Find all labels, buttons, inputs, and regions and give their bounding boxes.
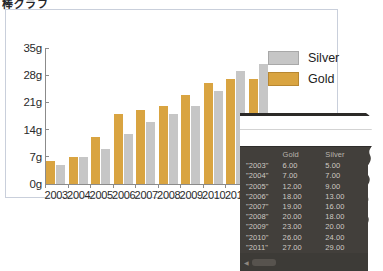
bar-gold[interactable] <box>91 137 100 184</box>
table-cell-gold: 19.00 <box>283 201 326 211</box>
y-axis-tick: 28g <box>23 69 45 81</box>
bar-silver[interactable] <box>124 134 133 185</box>
y-axis-tick: 21g <box>23 96 45 108</box>
bar-silver[interactable] <box>191 106 200 184</box>
y-axis-tick-label: 7g <box>30 151 42 163</box>
bar-silver[interactable] <box>56 165 65 184</box>
table-cell-gold: 26.00 <box>283 232 326 242</box>
bar-group <box>204 48 224 184</box>
chevron-left-icon[interactable]: ◀ <box>244 259 249 266</box>
plot-area: 0g7g14g21g28g35g <box>45 48 270 184</box>
bar-gold[interactable] <box>114 114 123 184</box>
bar-group <box>181 48 201 184</box>
table-cell-silver: 13.00 <box>325 191 368 201</box>
x-axis-tick-label: 2008 <box>157 189 180 201</box>
x-axis-tick-mark <box>90 184 91 188</box>
table-row[interactable]: "2009"23.0020.00 <box>240 222 368 232</box>
horizontal-scrollbar-thumb[interactable] <box>252 259 276 266</box>
table-header-row: Gold Silver <box>240 149 368 161</box>
x-axis-tick-mark <box>203 184 204 188</box>
bar-gold[interactable] <box>136 110 145 184</box>
y-axis-tick: 14g <box>23 124 45 136</box>
table-row[interactable]: "2008"20.0018.00 <box>240 212 368 222</box>
table-cell-gold: 12.00 <box>283 181 326 191</box>
table-cell-gold: 18.00 <box>283 191 326 201</box>
bar-group <box>114 48 134 184</box>
bar-silver[interactable] <box>101 149 110 184</box>
bar-group <box>46 48 66 184</box>
x-axis-line <box>45 184 272 185</box>
bar-silver[interactable] <box>146 122 155 184</box>
bar-gold[interactable] <box>46 161 55 184</box>
x-axis-tick-mark <box>158 184 159 188</box>
y-axis-tick-label: 35g <box>23 42 42 54</box>
table-row[interactable]: "2010"26.0024.00 <box>240 232 368 242</box>
bar-gold[interactable] <box>181 95 190 184</box>
legend-item-gold: Gold <box>268 72 339 86</box>
bar-group <box>69 48 89 184</box>
x-axis-tick-mark <box>135 184 136 188</box>
table-cell-silver: 29.00 <box>325 242 368 252</box>
x-axis-tick-mark <box>180 184 181 188</box>
table-cell-year: "2006" <box>240 191 283 201</box>
column-header-year[interactable] <box>240 149 283 161</box>
table-cell-year: "2010" <box>240 232 283 242</box>
legend-swatch-silver <box>268 51 299 65</box>
bar-gold[interactable] <box>204 83 213 184</box>
bar-silver[interactable] <box>79 157 88 184</box>
table-cell-year: "2005" <box>240 181 283 191</box>
x-axis-tick-label: 2004 <box>67 189 90 201</box>
table-row[interactable]: "2004"7.007.00 <box>240 171 368 181</box>
table-row[interactable]: "2005"12.009.00 <box>240 181 368 191</box>
table-cell-silver: 24.00 <box>325 232 368 242</box>
bar-group <box>91 48 111 184</box>
table-cell-year: "2009" <box>240 222 283 232</box>
table-cell-gold: 7.00 <box>283 171 326 181</box>
legend-label-gold: Gold <box>308 72 334 86</box>
data-table-overlay: Gold Silver "2003"6.005.00"2004"7.007.00… <box>240 113 383 271</box>
table-cell-gold: 27.00 <box>283 242 326 252</box>
chart-legend: Silver Gold <box>268 51 339 93</box>
legend-label-silver: Silver <box>308 51 339 65</box>
table-row[interactable]: "2006"18.0013.00 <box>240 191 368 201</box>
table-row[interactable]: "2003"6.005.00 <box>240 161 368 171</box>
column-header-silver[interactable]: Silver <box>325 149 368 161</box>
table-cell-gold: 23.00 <box>283 222 326 232</box>
x-axis-tick-mark <box>45 184 46 188</box>
y-axis-tick: 7g <box>30 151 45 163</box>
table-cell-gold: 20.00 <box>283 212 326 222</box>
overlay-footer: ◀ <box>240 253 368 271</box>
x-axis-tick-label: 2010 <box>202 189 225 201</box>
column-header-gold[interactable]: Gold <box>283 149 326 161</box>
y-axis-tick: 35g <box>23 42 45 54</box>
bar-gold[interactable] <box>159 106 168 184</box>
table-cell-silver: 18.00 <box>325 212 368 222</box>
x-axis-tick-mark <box>68 184 69 188</box>
table-cell-silver: 20.00 <box>325 222 368 232</box>
x-axis-tick-label: 2003 <box>45 189 68 201</box>
x-axis-tick-label: 2009 <box>180 189 203 201</box>
table-row[interactable]: "2007"19.0016.00 <box>240 201 368 211</box>
table-cell-year: "2007" <box>240 201 283 211</box>
bar-silver[interactable] <box>214 91 223 184</box>
overlay-content: Gold Silver "2003"6.005.00"2004"7.007.00… <box>240 113 368 271</box>
table-cell-year: "2008" <box>240 212 283 222</box>
table-cell-year: "2003" <box>240 161 283 171</box>
table-cell-year: "2004" <box>240 171 283 181</box>
x-axis-tick-mark <box>113 184 114 188</box>
bar-silver[interactable] <box>169 114 178 184</box>
table-cell-year: "2011" <box>240 242 283 252</box>
bar-gold[interactable] <box>69 157 78 184</box>
table-cell-silver: 16.00 <box>325 201 368 211</box>
table-cell-silver: 9.00 <box>325 181 368 191</box>
y-axis-tick: 0g <box>30 178 45 190</box>
table-cell-silver: 5.00 <box>325 161 368 171</box>
legend-item-silver: Silver <box>268 51 339 65</box>
bar-gold[interactable] <box>226 79 235 184</box>
table-row[interactable]: "2011"27.0029.00 <box>240 242 368 252</box>
data-table: Gold Silver "2003"6.005.00"2004"7.007.00… <box>240 149 368 262</box>
table-cell-gold: 6.00 <box>283 161 326 171</box>
bar-group <box>159 48 179 184</box>
x-axis-tick-label: 2005 <box>90 189 113 201</box>
bar-group <box>136 48 156 184</box>
